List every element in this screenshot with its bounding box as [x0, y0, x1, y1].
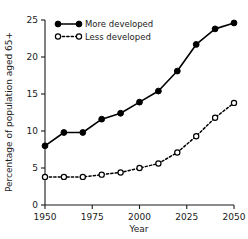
- data-point-marker: [137, 165, 142, 170]
- data-point-marker: [175, 150, 180, 155]
- legend-entry[interactable]: More developed: [55, 19, 153, 29]
- data-point-marker: [42, 143, 48, 149]
- data-point-marker: [156, 161, 161, 166]
- legend-marker-sample: [55, 34, 60, 39]
- x-axis-title: Year: [128, 224, 148, 234]
- x-axis-ticks: 19501975200020252050: [34, 205, 246, 222]
- x-tick-label: 2000: [128, 212, 151, 222]
- x-tick-label: 2050: [223, 212, 246, 222]
- legend-marker-sample: [76, 34, 81, 39]
- x-tick-label: 1975: [81, 212, 104, 222]
- data-point-marker: [61, 130, 67, 136]
- data-point-marker: [42, 174, 47, 179]
- y-axis-title: Percentage of population aged 65+: [4, 32, 14, 192]
- data-point-marker: [118, 170, 123, 175]
- y-tick-label: 15: [27, 89, 38, 99]
- line-chart: 0510152025 19501975200020252050 Year Per…: [0, 0, 248, 239]
- legend-marker-sample: [55, 21, 61, 27]
- data-point-marker: [80, 130, 86, 136]
- data-point-marker: [137, 99, 143, 105]
- data-point-marker: [212, 26, 218, 32]
- y-axis-ticks: 0510152025: [27, 15, 45, 210]
- data-point-marker: [99, 116, 105, 122]
- data-point-marker: [174, 68, 180, 74]
- data-point-marker: [80, 174, 85, 179]
- series-less-developed: [42, 100, 236, 179]
- data-series-group: [42, 20, 237, 179]
- chart-container: 0510152025 19501975200020252050 Year Per…: [0, 0, 248, 239]
- y-tick-label: 25: [27, 15, 38, 25]
- legend-entry[interactable]: Less developed: [55, 32, 150, 42]
- legend-entry-label: Less developed: [85, 32, 151, 42]
- chart-legend: More developedLess developed: [55, 19, 153, 41]
- legend-entry-label: More developed: [85, 19, 153, 29]
- data-point-marker: [156, 88, 162, 94]
- data-point-marker: [193, 42, 199, 48]
- data-point-marker: [61, 174, 66, 179]
- y-tick-label: 5: [32, 163, 38, 173]
- data-point-marker: [231, 100, 236, 105]
- x-tick-label: 2025: [175, 212, 198, 222]
- data-point-marker: [194, 134, 199, 139]
- data-point-marker: [99, 172, 104, 177]
- data-point-marker: [231, 20, 237, 26]
- y-tick-label: 20: [27, 52, 39, 62]
- y-tick-label: 10: [27, 126, 39, 136]
- data-point-marker: [118, 110, 124, 116]
- x-tick-label: 1950: [34, 212, 57, 222]
- y-tick-label: 0: [32, 200, 38, 210]
- data-point-marker: [213, 115, 218, 120]
- legend-marker-sample: [76, 21, 82, 27]
